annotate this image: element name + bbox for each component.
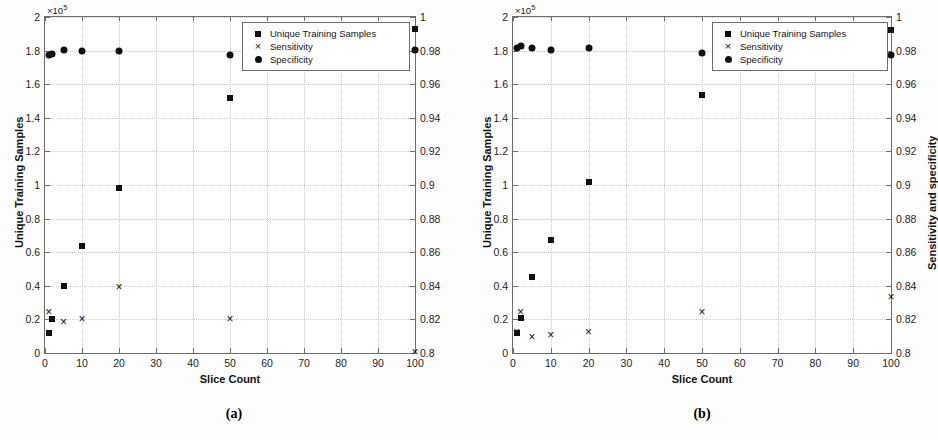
- x-axis-tick-label: 90: [372, 357, 384, 369]
- x-axis-tick: [702, 348, 703, 353]
- legend-label: Sensitivity: [738, 41, 783, 52]
- y-axis-tick-label-right: 0.96: [420, 78, 440, 90]
- x-axis-tick-label: 90: [847, 357, 859, 369]
- y-axis-tick-right: [886, 286, 891, 287]
- data-point-square: [548, 237, 554, 243]
- x-axis-tick-top: [778, 17, 779, 21]
- data-point-square: [586, 179, 592, 185]
- panel-b: ×105 Slice Count 00.20.40.60.811.21.41.6…: [468, 0, 936, 440]
- y-axis-tick-right: [886, 252, 891, 253]
- x-axis-tick: [778, 348, 779, 353]
- y-axis-tick-left: [513, 185, 518, 186]
- y-axis-tick-label-right: 0.86: [420, 246, 440, 258]
- y-axis-title-right-b: Sensitivity and specificity: [926, 136, 938, 271]
- data-point-cross: [887, 292, 896, 301]
- y-axis-tick-left: [45, 151, 50, 152]
- y-axis-tick-right: [886, 185, 891, 186]
- legend-label: Specificity: [268, 54, 313, 65]
- y-axis-tick-left: [513, 84, 518, 85]
- y-axis-tick-label-right: 0.92: [896, 145, 916, 157]
- y-axis-tick-label-left: 0.4: [493, 280, 508, 292]
- y-axis-tick-left: [45, 118, 50, 119]
- legend-square-icon: [248, 31, 268, 37]
- y-axis-tick-label-left: 1.4: [25, 112, 40, 124]
- y-axis-tick-label-left: 2: [502, 11, 508, 23]
- x-axis-tick: [267, 348, 268, 353]
- legend-label: Unique Training Samples: [738, 28, 846, 39]
- x-axis-tick-top: [551, 17, 552, 21]
- x-axis-tick-top: [740, 17, 741, 21]
- data-point-cross: [226, 315, 235, 324]
- x-axis-tick-label: 50: [224, 357, 236, 369]
- legend-square-icon: [718, 31, 738, 37]
- y-axis-title-left-b: Unique Training Samples: [481, 117, 493, 248]
- data-point-cross: [115, 282, 124, 291]
- data-point-circle: [585, 45, 592, 52]
- legend-cross-icon: ×: [718, 41, 738, 52]
- y-axis-tick-label-right: 0.84: [420, 280, 440, 292]
- data-point-circle: [412, 46, 419, 53]
- x-axis-tick-label: 50: [696, 357, 708, 369]
- x-axis-tick-label: 40: [187, 357, 199, 369]
- y-axis-tick-label-left: 1.6: [25, 78, 40, 90]
- y-axis-tick-left: [513, 219, 518, 220]
- y-axis-tick-left: [513, 286, 518, 287]
- y-axis-tick-right: [886, 219, 891, 220]
- y-axis-tick-right: [410, 252, 415, 253]
- y-axis-tick-label-right: 0.94: [420, 112, 440, 124]
- y-axis-tick-label-right: 0.96: [896, 78, 916, 90]
- x-axis-title-b: Slice Count: [513, 373, 891, 385]
- x-axis-tick: [815, 348, 816, 353]
- x-axis-tick: [119, 348, 120, 353]
- panel-caption-b: (b): [468, 406, 936, 422]
- x-axis-tick-top: [815, 17, 816, 21]
- x-axis-tick-top: [156, 17, 157, 21]
- gridline-vertical: [551, 17, 552, 353]
- y-axis-tick-right: [410, 151, 415, 152]
- x-axis-tick-label: 20: [113, 357, 125, 369]
- panel-caption-a: (a): [0, 406, 468, 422]
- y-axis-tick-label-right: 0.88: [896, 213, 916, 225]
- y-axis-tick-left: [45, 353, 50, 354]
- x-axis-tick-label: 10: [76, 357, 88, 369]
- x-axis-tick-top: [513, 17, 514, 21]
- x-axis-tick-top: [664, 17, 665, 21]
- y-axis-tick-label-left: 0.8: [25, 213, 40, 225]
- y-axis-tick-label-right: 0.86: [896, 246, 916, 258]
- legend-circle-icon: [248, 56, 268, 63]
- y-axis-tick-label-right: 0.82: [896, 313, 916, 325]
- y-axis-tick-label-left: 0.8: [493, 213, 508, 225]
- x-axis-tick-label: 80: [810, 357, 822, 369]
- x-axis-tick-top: [378, 17, 379, 21]
- data-point-square: [46, 330, 52, 336]
- x-axis-tick: [45, 348, 46, 353]
- gridline-vertical: [230, 17, 231, 353]
- legend-label: Unique Training Samples: [268, 28, 376, 39]
- x-axis-tick-label: 60: [734, 357, 746, 369]
- y-axis-tick-left: [513, 252, 518, 253]
- y-axis-tick-right: [410, 185, 415, 186]
- y-axis-tick-right: [886, 151, 891, 152]
- data-point-cross: [698, 307, 707, 316]
- y-axis-tick-label-left: 0.6: [25, 246, 40, 258]
- y-axis-tick-label-left: 0.4: [25, 280, 40, 292]
- gridline-vertical: [193, 17, 194, 353]
- y-axis-tick-label-left: 1.2: [493, 145, 508, 157]
- x-axis-tick-label: 30: [621, 357, 633, 369]
- y-axis-tick-label-right: 0.9: [420, 179, 435, 191]
- data-point-cross: [546, 331, 555, 340]
- y-axis-tick-label-right: 0.94: [896, 112, 916, 124]
- data-point-cross: [411, 348, 420, 357]
- data-point-circle: [79, 48, 86, 55]
- gridline-vertical: [702, 17, 703, 353]
- y-axis-tick-label-left: 0: [34, 347, 40, 359]
- x-axis-tick-top: [891, 17, 892, 21]
- x-axis-tick: [891, 348, 892, 353]
- data-point-square: [61, 283, 67, 289]
- y-axis-tick-left: [45, 219, 50, 220]
- legend-a: Unique Training Samples×SensitivitySpeci…: [242, 22, 410, 71]
- x-axis-tick-label: 20: [583, 357, 595, 369]
- data-point-square: [412, 26, 418, 32]
- panel-a: ×105 Slice Count 00.20.40.60.811.21.41.6…: [0, 0, 468, 440]
